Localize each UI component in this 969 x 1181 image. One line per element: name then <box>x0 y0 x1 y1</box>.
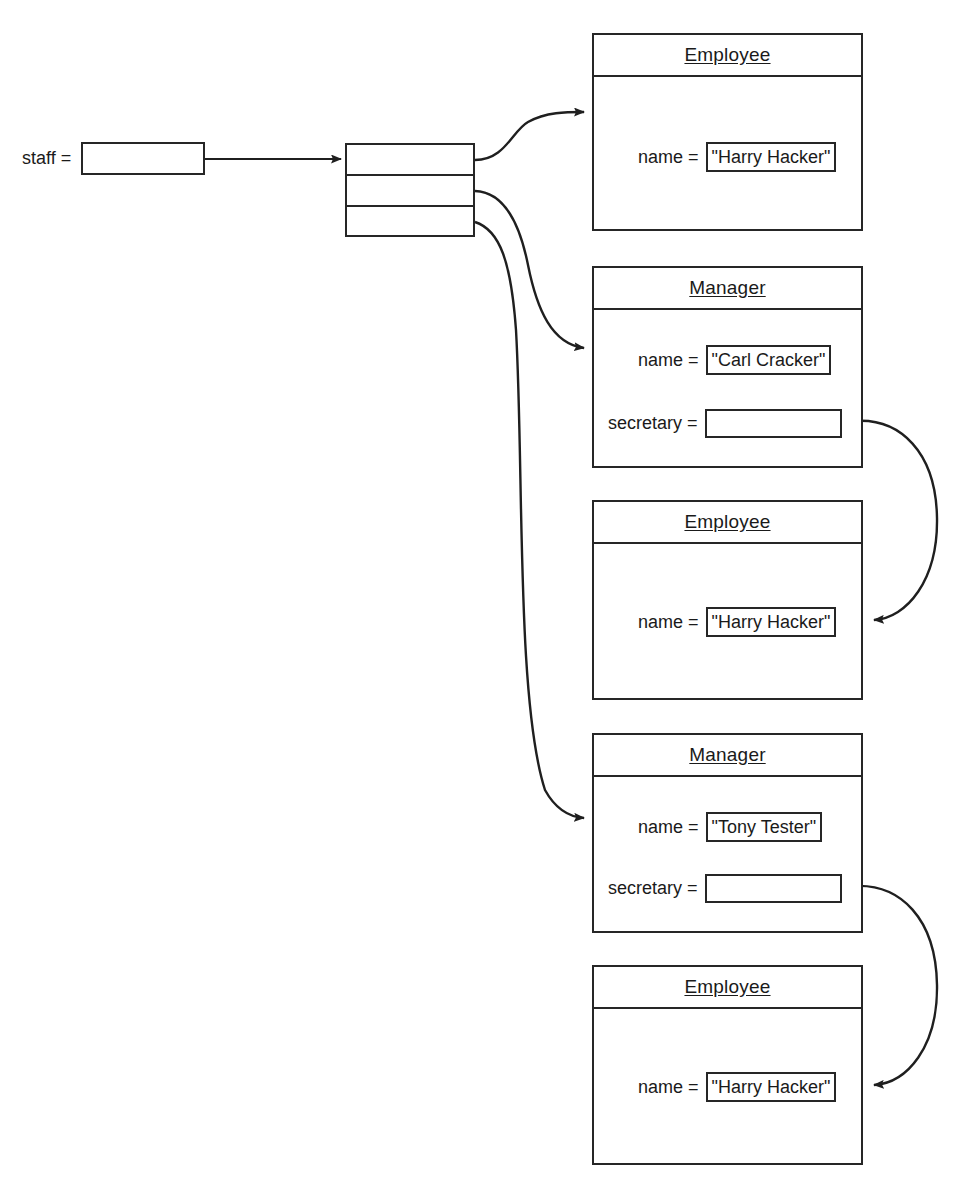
object-title: Employee <box>684 44 770 66</box>
object-box-manager-2: Manager name = "Tony Tester" secretary = <box>592 733 863 933</box>
object-box-manager-1: Manager name = "Carl Cracker" secretary … <box>592 266 863 468</box>
staff-reference-slot[interactable] <box>81 142 205 175</box>
field-label: secretary = <box>608 878 698 899</box>
field-reference-slot[interactable] <box>705 409 842 438</box>
field-label: name = <box>638 817 699 838</box>
field-name: name = "Harry Hacker" <box>638 607 836 637</box>
field-label: name = <box>638 612 699 633</box>
field-name: name = "Tony Tester" <box>638 812 822 842</box>
object-title: Manager <box>689 744 765 766</box>
array-cell-0[interactable] <box>347 145 473 176</box>
field-secretary: secretary = <box>608 874 842 903</box>
field-value: "Tony Tester" <box>712 817 817 838</box>
field-name: name = "Carl Cracker" <box>638 345 831 375</box>
object-header: Manager <box>594 268 861 310</box>
object-header: Manager <box>594 735 861 777</box>
field-value: "Carl Cracker" <box>712 350 826 371</box>
object-title: Employee <box>684 511 770 533</box>
object-box-employee-3: Employee name = "Harry Hacker" <box>592 965 863 1165</box>
arrow-manager2-secretary-to-employee3 <box>855 886 937 1085</box>
object-title: Employee <box>684 976 770 998</box>
field-label: name = <box>638 147 699 168</box>
object-header: Employee <box>594 502 861 544</box>
array-cell-2[interactable] <box>347 207 473 238</box>
field-value-box[interactable]: "Harry Hacker" <box>706 607 837 637</box>
arrow-manager1-secretary-to-employee2 <box>855 421 937 620</box>
arrow-array1-to-manager1 <box>475 191 584 348</box>
array-cell-1[interactable] <box>347 176 473 207</box>
arrow-array2-to-manager2 <box>475 222 584 818</box>
object-box-employee-2: Employee name = "Harry Hacker" <box>592 500 863 700</box>
field-name: name = "Harry Hacker" <box>638 142 836 172</box>
object-box-employee-1: Employee name = "Harry Hacker" <box>592 33 863 231</box>
object-header: Employee <box>594 967 861 1009</box>
staff-array-object <box>345 143 475 237</box>
field-value: "Harry Hacker" <box>712 1077 831 1098</box>
field-secretary: secretary = <box>608 409 842 438</box>
field-value: "Harry Hacker" <box>712 147 831 168</box>
field-value-box[interactable]: "Harry Hacker" <box>706 142 837 172</box>
field-value-box[interactable]: "Harry Hacker" <box>706 1072 837 1102</box>
field-name: name = "Harry Hacker" <box>638 1072 836 1102</box>
staff-label: staff = <box>22 148 71 169</box>
field-value: "Harry Hacker" <box>712 612 831 633</box>
field-value-box[interactable]: "Tony Tester" <box>706 812 823 842</box>
field-label: name = <box>638 350 699 371</box>
field-reference-slot[interactable] <box>705 874 842 903</box>
field-value-box[interactable]: "Carl Cracker" <box>706 345 832 375</box>
field-label: name = <box>638 1077 699 1098</box>
field-label: secretary = <box>608 413 698 434</box>
object-header: Employee <box>594 35 861 77</box>
object-diagram-canvas: staff = Employee name = "Harry Hacker" M… <box>0 0 969 1181</box>
staff-variable: staff = <box>22 142 205 175</box>
arrow-array0-to-employee1 <box>475 112 584 160</box>
object-title: Manager <box>689 277 765 299</box>
